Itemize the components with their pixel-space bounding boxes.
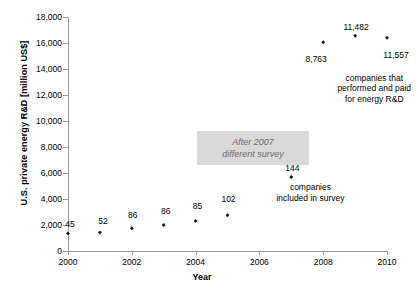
x-tick-mark [132,251,133,255]
y-tick-label: 0 [18,247,62,256]
data-point-label: 102 [221,195,235,204]
data-point-label: 11,557 [383,51,408,60]
y-tick-mark [63,199,68,200]
y-tick-label: 16,000 [18,39,62,48]
annotation-included-in-survey: companies included in survey [264,182,356,203]
x-tick-mark [196,251,197,255]
y-tick-mark [63,121,68,122]
y-axis-line [68,17,69,251]
x-tick-mark [323,251,324,255]
y-tick-label: 14,000 [18,65,62,74]
data-point-label: 52 [98,217,107,226]
y-tick-label: 10,000 [18,117,62,126]
y-tick-label: 18,000 [18,13,62,22]
y-tick-mark [63,95,68,96]
data-point [130,226,134,230]
x-tick-mark [68,251,69,255]
data-point-label: 86 [161,207,170,216]
data-point [162,223,166,227]
data-point-label: 86 [128,211,137,220]
x-tick-label: 2010 [362,258,412,267]
x-axis-line [68,251,387,252]
x-tick-label: 2002 [107,258,157,267]
y-tick-mark [63,147,68,148]
y-tick-mark [63,69,68,70]
y-tick-label: 8,000 [18,143,62,152]
y-tick-mark [63,17,68,18]
y-tick-label: 4,000 [18,195,62,204]
data-point [289,175,293,179]
x-tick-label: 2000 [43,258,93,267]
x-tick-mark [259,251,260,255]
data-point [194,219,198,223]
data-point-label: 11,482 [343,23,368,32]
data-point-label: 8,763 [306,55,327,64]
x-tick-mark [387,251,388,255]
y-tick-label: 2,000 [18,221,62,230]
y-tick-mark [63,173,68,174]
data-point [385,36,389,40]
data-point-label: 45 [65,220,74,229]
data-point [98,231,102,235]
y-tick-label: 12,000 [18,91,62,100]
x-tick-label: 2004 [171,258,221,267]
annotation-performed-and-paid: companies that performed and paid for en… [322,73,416,105]
data-point [66,231,70,235]
x-tick-label: 2006 [234,258,284,267]
data-point [353,34,357,38]
annotation-after-2007-survey: After 2007 different survey [197,131,309,165]
data-point [226,213,230,217]
data-point [321,40,325,44]
x-tick-label: 2008 [298,258,348,267]
y-tick-mark [63,43,68,44]
data-point-label: 85 [193,202,202,211]
x-axis-title: Year [0,272,404,282]
y-tick-label: 6,000 [18,169,62,178]
